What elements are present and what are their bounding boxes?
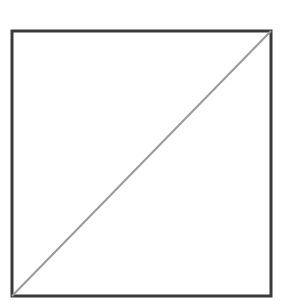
diagonal-line (12, 31, 271, 296)
diagram-canvas (0, 0, 284, 304)
